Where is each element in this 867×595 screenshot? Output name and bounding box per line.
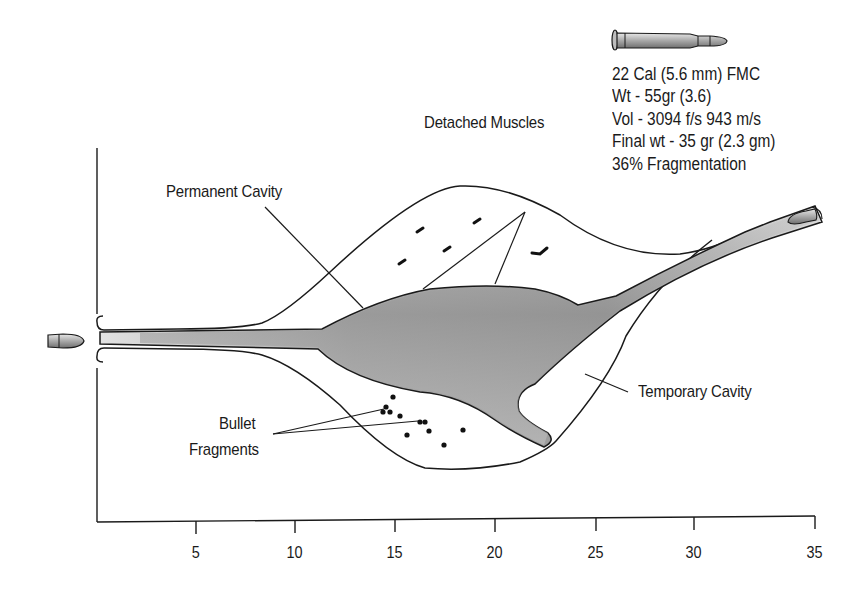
spec-final-weight: Final wt - 35 gr (2.3 gm) [612, 130, 775, 152]
label-bullet-fragments-line2: Fragments [189, 441, 259, 458]
label-permanent-cavity: Permanent Cavity [166, 183, 282, 200]
x-tick-15: 15 [386, 543, 402, 563]
spec-caliber: 22 Cal (5.6 mm) FMC [612, 63, 775, 85]
x-tick-10: 10 [286, 543, 302, 563]
spec-velocity: Vol - 3094 f/s 943 m/s [612, 108, 775, 130]
spec-fragmentation: 36% Fragmentation [612, 153, 775, 175]
cartridge-icon [612, 30, 727, 50]
x-axis [97, 516, 815, 522]
detached-muscle-marks [399, 219, 547, 264]
x-tick-35: 35 [806, 543, 822, 563]
bullet-spec-block: 22 Cal (5.6 mm) FMC Wt - 55gr (3.6) Vol … [612, 63, 775, 175]
x-tick-20: 20 [486, 543, 502, 563]
x-tick-5: 5 [192, 543, 200, 563]
spec-weight: Wt - 55gr (3.6) [612, 85, 775, 107]
entry-bullet-icon [48, 334, 84, 348]
bullet-fragments-dots [380, 394, 465, 447]
label-temporary-cavity: Temporary Cavity [638, 383, 752, 400]
label-detached-muscles: Detached Muscles [424, 114, 544, 131]
x-tick-25: 25 [587, 543, 603, 563]
x-tick-30: 30 [685, 543, 701, 563]
label-bullet-fragments-line1: Bullet [219, 415, 255, 432]
